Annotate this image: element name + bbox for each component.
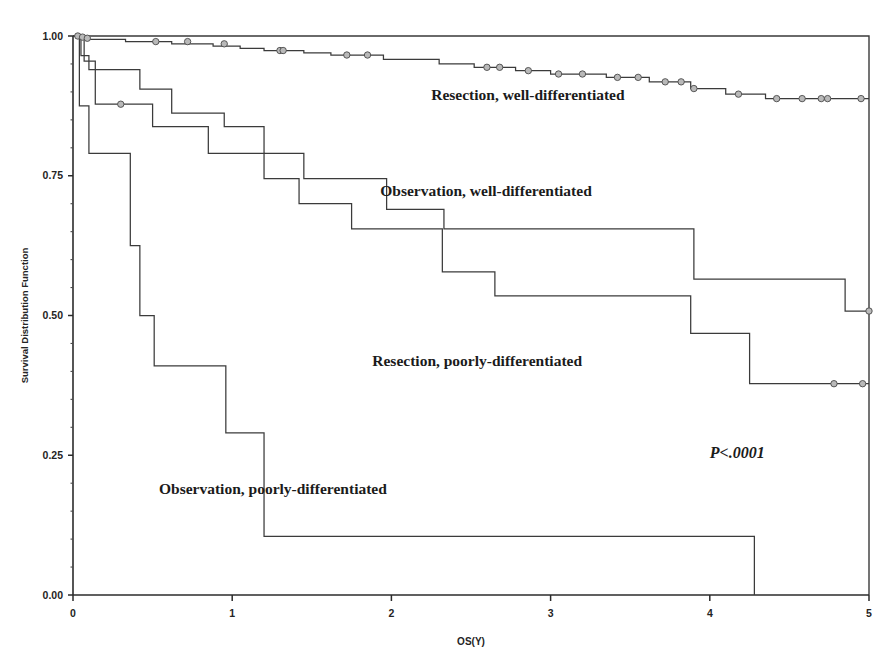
y-axis-ticks <box>68 36 73 595</box>
censor-mark <box>691 85 697 91</box>
censor-mark <box>824 95 830 101</box>
censor-mark <box>118 101 124 107</box>
censor-mark <box>484 64 490 70</box>
censor-mark <box>866 308 872 314</box>
censor-mark <box>579 71 585 77</box>
x-tick-label: 3 <box>548 607 554 619</box>
figure-root: 0.000.250.500.751.00 Survival Distributi… <box>0 0 896 661</box>
x-axis: 012345 OS(Y) <box>70 595 872 647</box>
censor-mark <box>184 38 190 44</box>
censor-mark <box>344 52 350 58</box>
y-axis-tick-labels: 0.000.250.500.751.00 <box>43 30 64 601</box>
x-axis-title: OS(Y) <box>457 636 485 647</box>
x-axis-tick-labels: 012345 <box>70 607 872 619</box>
series-label-2: Resection, poorly-differentiated <box>372 352 582 369</box>
x-tick-label: 1 <box>229 607 235 619</box>
censor-mark <box>662 79 668 85</box>
censor-mark <box>773 95 779 101</box>
x-axis-ticks <box>73 595 869 601</box>
censor-mark <box>221 41 227 47</box>
kaplan-meier-chart: 0.000.250.500.751.00 Survival Distributi… <box>0 0 896 661</box>
x-tick-label: 0 <box>70 607 76 619</box>
censor-mark <box>280 47 286 53</box>
series-label-0: Resection, well-differentiated <box>431 86 625 103</box>
series-annotations-layer: Resection, well-differentiatedObservatio… <box>159 86 625 497</box>
censor-mark <box>858 95 864 101</box>
x-tick-label: 5 <box>866 607 872 619</box>
y-tick-label: 1.00 <box>43 30 64 42</box>
censor-mark <box>831 381 837 387</box>
censor-mark <box>635 74 641 80</box>
y-tick-label: 0.50 <box>43 309 64 321</box>
censor-mark <box>859 381 865 387</box>
pvalue-annotation: P<.0001 <box>709 444 765 461</box>
km-curve-3 <box>73 36 754 595</box>
plot-frame-border <box>73 36 869 595</box>
censor-mark <box>496 64 502 70</box>
y-tick-label: 0.25 <box>43 449 64 461</box>
censor-mark <box>364 52 370 58</box>
y-tick-label: 0.00 <box>43 589 64 601</box>
censor-mark <box>525 67 531 73</box>
y-axis-title: Survival Distribution Function <box>19 247 30 383</box>
censor-mark <box>153 38 159 44</box>
censor-mark <box>84 35 90 41</box>
censor-mark <box>678 79 684 85</box>
y-tick-label: 0.75 <box>43 169 64 181</box>
y-axis: 0.000.250.500.751.00 Survival Distributi… <box>19 30 73 601</box>
km-curve-1 <box>73 36 869 311</box>
plot-frame <box>73 36 869 595</box>
series-layer <box>73 36 869 595</box>
censor-mark <box>735 91 741 97</box>
x-tick-label: 2 <box>388 607 394 619</box>
x-tick-label: 4 <box>707 607 713 619</box>
censor-mark <box>614 74 620 80</box>
series-label-3: Observation, poorly-differentiated <box>159 480 387 497</box>
censor-mark <box>555 71 561 77</box>
series-label-1: Observation, well-differentiated <box>380 182 592 199</box>
censor-mark <box>799 95 805 101</box>
censor-mark <box>818 95 824 101</box>
